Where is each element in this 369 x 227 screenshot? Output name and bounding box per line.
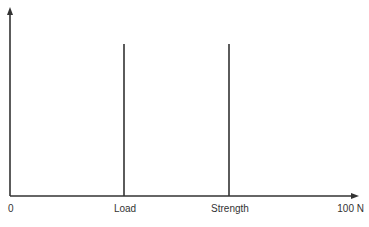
x-axis-arrow-icon <box>351 193 359 199</box>
x-axis-min-label: 0 <box>8 203 14 215</box>
strength-label: Strength <box>211 203 249 215</box>
load-strength-diagram: 0 Load Strength 100 N <box>0 0 369 227</box>
diagram-canvas <box>0 0 369 227</box>
x-axis-max-label: 100 N <box>337 203 364 215</box>
y-axis-arrow-icon <box>7 7 13 15</box>
load-label: Load <box>114 203 136 215</box>
